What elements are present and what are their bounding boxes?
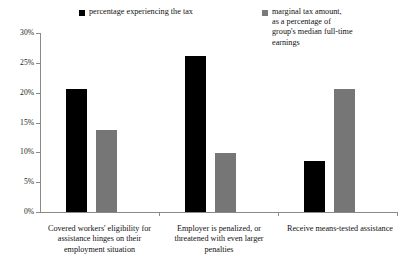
plot-area: 30% 25% 20% 15% 10% 5% 0% Covered worker…: [0, 0, 406, 268]
x-category-label-3: Receive means-tested assistance: [278, 224, 402, 234]
y-tick-10: [36, 152, 41, 153]
chart-figure: percentage experiencing the tax marginal…: [0, 0, 406, 268]
x-tick-separator-3: [397, 212, 398, 216]
y-tick-25: [36, 63, 41, 64]
bar-group3-series1: [304, 161, 325, 212]
y-tick-label-15: 15%: [2, 119, 34, 127]
y-tick-label-5: 5%: [2, 178, 34, 186]
y-tick-label-20: 20%: [2, 89, 34, 97]
y-tick-label-25: 25%: [2, 59, 34, 67]
y-tick-label-0: 0%: [2, 208, 34, 216]
x-tick-separator-2: [278, 212, 279, 216]
bar-group2-series2: [215, 153, 236, 212]
y-tick-label-10: 10%: [2, 148, 34, 156]
y-tick-30: [36, 33, 41, 34]
y-tick-15: [36, 123, 41, 124]
y-tick-20: [36, 93, 41, 94]
y-tick-label-30: 30%: [2, 29, 34, 37]
bar-group1-series2: [96, 130, 117, 212]
x-category-label-2: Employer is penalized, or threatened wit…: [155, 224, 283, 255]
y-tick-0: [36, 212, 41, 213]
y-tick-5: [36, 182, 41, 183]
x-category-label-1: Covered workers' eligibility for assista…: [33, 224, 166, 255]
bar-group1-series1: [66, 89, 87, 212]
x-tick-separator-1: [159, 212, 160, 216]
bar-group3-series2: [334, 89, 355, 212]
x-axis-line: [40, 212, 398, 213]
bar-group2-series1: [185, 56, 206, 212]
